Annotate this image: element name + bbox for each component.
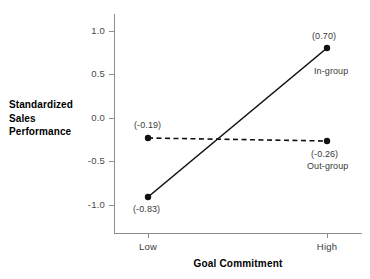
series-label-in-group: In-group: [314, 66, 348, 76]
series-line-out-group: [148, 138, 327, 141]
data-point-in-group-high: [324, 45, 330, 51]
value-label-in-group-high: (0.70): [312, 31, 336, 41]
series-line-in-group: [148, 48, 327, 197]
data-point-in-group-low: [145, 194, 151, 200]
plot-area: [0, 0, 370, 279]
value-label-in-group-low: (-0.83): [133, 204, 160, 214]
value-label-out-group-high: (-0.26): [311, 149, 338, 159]
x-axis-title: Goal Commitment: [114, 258, 362, 269]
series-label-out-group: Out-group: [307, 161, 348, 171]
value-label-out-group-low: (-0.19): [134, 120, 161, 130]
data-point-out-group-high: [324, 138, 330, 144]
data-point-out-group-low: [145, 135, 151, 141]
interaction-plot-figure: Standardized Sales Performance 1.0 0.5 0…: [0, 0, 370, 279]
